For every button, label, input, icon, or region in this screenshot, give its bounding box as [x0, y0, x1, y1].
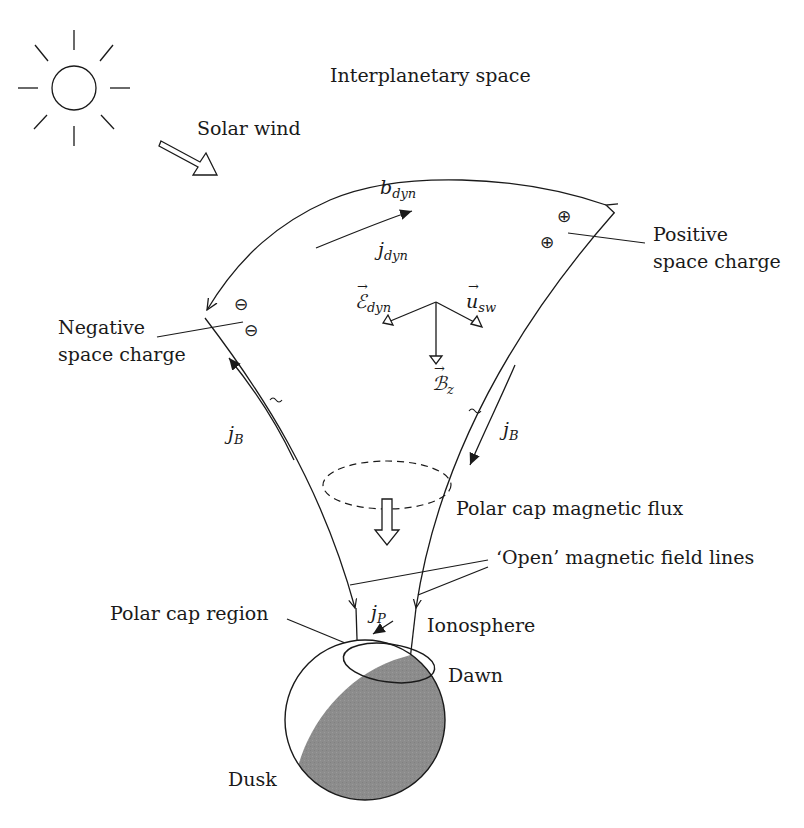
- flux-arrow-icon: [375, 499, 399, 545]
- label-polar-cap-region: Polar cap region: [110, 602, 268, 625]
- sun-icon: [18, 30, 130, 146]
- label-polar-cap-magnetic-flux: Polar cap magnetic flux: [456, 497, 683, 520]
- label-dusk: Dusk: [228, 768, 277, 791]
- label-interplanetary-space: Interplanetary space: [330, 64, 531, 87]
- negative-charge-symbol-2: ⊖: [244, 322, 258, 339]
- symbol-j-b-left: jB: [228, 424, 243, 446]
- label-open-field-lines: ‘Open’ magnetic field lines: [496, 546, 754, 569]
- label-negative-space-charge-2: space charge: [58, 343, 186, 366]
- label-negative-space-charge-1: Negative: [58, 316, 145, 339]
- left-field-line: [205, 318, 355, 608]
- magnetosphere-diagram: Interplanetary space Solar wind Positive…: [0, 0, 804, 828]
- symbol-j-b-right: jB: [503, 420, 518, 442]
- positive-charge-symbol-1: ⊕: [557, 208, 571, 225]
- solar-wind-arrow-icon: [159, 141, 217, 175]
- label-positive-space-charge-1: Positive: [653, 223, 728, 246]
- symbol-j-p: jP: [371, 603, 386, 625]
- label-ionosphere: Ionosphere: [427, 614, 535, 637]
- symbol-b-dyn: bdyn: [380, 178, 416, 200]
- symbol-j-dyn: jdyn: [378, 240, 408, 262]
- label-positive-space-charge-2: space charge: [653, 250, 781, 273]
- negative-charge-symbol-1: ⊖: [234, 296, 248, 313]
- symbol-b-z: ℬz: [432, 374, 454, 396]
- label-dawn: Dawn: [448, 664, 503, 687]
- label-solar-wind: Solar wind: [197, 117, 301, 140]
- positive-charge-symbol-2: ⊕: [540, 234, 554, 251]
- symbol-u-sw: usw: [466, 292, 496, 314]
- diagram-canvas: [0, 0, 804, 828]
- earth-icon: [285, 638, 460, 820]
- symbol-e-dyn: ℰdyn: [355, 292, 391, 314]
